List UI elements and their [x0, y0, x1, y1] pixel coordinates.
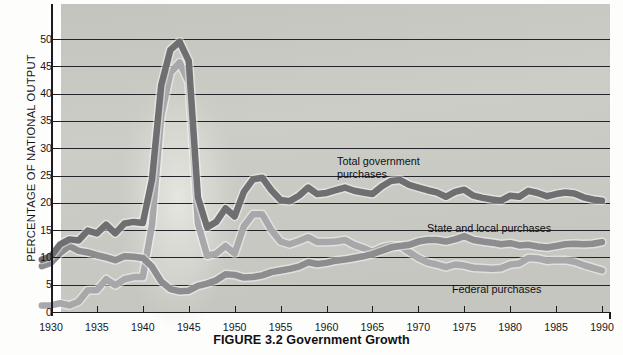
figure-container: PERCENTAGE OF NATIONAL OUTPUT 0510152025… [0, 0, 623, 355]
x-axis-ticks: 1930193519401945195019551960196519701975… [0, 0, 623, 355]
x-tick-mark-1950 [235, 306, 236, 313]
x-tick-mark-1985 [556, 306, 557, 313]
x-tick-label-1965: 1965 [352, 322, 392, 333]
x-tick-label-1960: 1960 [307, 322, 347, 333]
x-tick-mark-1960 [327, 306, 328, 313]
x-tick-mark-1940 [143, 306, 144, 313]
x-tick-label-1940: 1940 [123, 322, 163, 333]
annotation-federal-purchases: Federal purchases [452, 283, 541, 296]
x-tick-mark-1975 [464, 306, 465, 313]
x-tick-label-1970: 1970 [398, 322, 438, 333]
x-tick-mark-1980 [510, 306, 511, 313]
x-tick-label-1950: 1950 [215, 322, 255, 333]
x-tick-label-1935: 1935 [77, 322, 117, 333]
x-tick-label-1980: 1980 [490, 322, 530, 333]
x-tick-label-1945: 1945 [169, 322, 209, 333]
x-tick-mark-1990 [602, 306, 603, 313]
x-tick-label-1955: 1955 [261, 322, 301, 333]
x-tick-mark-1935 [97, 306, 98, 313]
x-tick-label-1930: 1930 [31, 322, 71, 333]
x-tick-mark-1945 [189, 306, 190, 313]
annotation-total-government-purchases: Total government purchases [337, 155, 420, 180]
x-tick-mark-1970 [418, 306, 419, 313]
figure-caption: FIGURE 3.2 Government Growth [0, 333, 623, 347]
annotation-state-and-local-purchases: State and local purchases [427, 222, 551, 235]
x-tick-label-1985: 1985 [536, 322, 576, 333]
x-tick-label-1975: 1975 [444, 322, 484, 333]
x-tick-label-1990: 1990 [582, 322, 622, 333]
x-tick-mark-1965 [372, 306, 373, 313]
x-tick-mark-1955 [281, 306, 282, 313]
